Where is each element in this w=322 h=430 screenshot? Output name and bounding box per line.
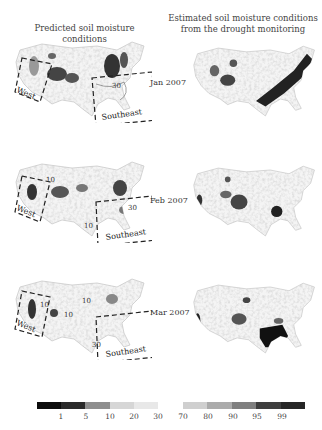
region-label-southeast: Southeast: [105, 344, 147, 359]
legend-tick: 70: [178, 412, 188, 421]
legend-tick: 20: [129, 412, 139, 421]
legend-swatch: [256, 402, 280, 409]
legend-swatch: [281, 402, 305, 409]
legend-swatch: [85, 402, 109, 409]
legend-tick: 1: [59, 412, 64, 421]
map-predicted-jan: West Southeast 30: [12, 38, 152, 123]
legend-tick: 95: [252, 412, 262, 421]
month-label-jan: Jan 2007: [150, 78, 186, 87]
legend-swatch: [207, 402, 231, 409]
legend-swatch: [61, 402, 85, 409]
region-label-southeast: Southeast: [105, 227, 147, 242]
legend-swatch: [110, 402, 134, 409]
legend-swatch: [37, 402, 61, 409]
map-estimated-jan: [190, 40, 322, 125]
contour-label: 10: [40, 301, 49, 309]
legend-tick: 80: [203, 412, 213, 421]
map-predicted-mar: West Southeast 10 10 10 30: [12, 275, 152, 360]
contour-label: 30: [128, 204, 137, 212]
legend-bar-wet: [183, 402, 305, 409]
legend-tick: 90: [228, 412, 238, 421]
right-title-line1: Estimated soil moisture conditions: [168, 13, 318, 24]
contour-label: 30: [112, 82, 121, 90]
month-label-mar: Mar 2007: [150, 308, 190, 317]
map-estimated-feb: [190, 160, 322, 245]
legend-tick: 30: [153, 412, 163, 421]
legend-swatch: [232, 402, 256, 409]
contour-label: 30: [92, 341, 101, 349]
legend-tick: 5: [84, 412, 89, 421]
map-predicted-feb: West Southeast 10 10 30: [12, 158, 152, 243]
legend-tick: 99: [277, 412, 287, 421]
legend-swatch: [134, 402, 158, 409]
map-estimated-mar: [190, 277, 322, 362]
region-label-southeast: Southeast: [101, 107, 143, 122]
contour-label: 10: [82, 297, 91, 305]
legend-swatch: [183, 402, 207, 409]
legend-tick: 10: [105, 412, 115, 421]
month-label-feb: Feb 2007: [150, 196, 188, 205]
legend-bar-dry: [37, 402, 158, 409]
contour-label: 10: [84, 222, 93, 230]
contour-label: 10: [46, 176, 55, 184]
right-title-line2: from the drought monitoring: [168, 24, 318, 35]
contour-label: 10: [64, 311, 73, 319]
right-column-title: Estimated soil moisture conditions from …: [168, 13, 318, 35]
